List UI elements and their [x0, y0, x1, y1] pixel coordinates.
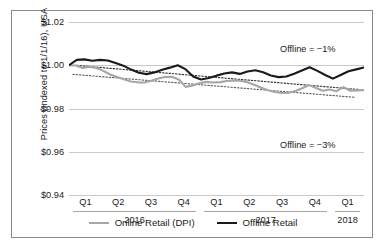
x-axis-quarter-tick: Q2: [112, 197, 124, 207]
x-axis-quarter-tick: Q2: [243, 197, 255, 207]
plot-area: $0.94$0.96$0.98$1.00$1.02 Offline = −1% …: [69, 22, 364, 195]
x-axis-year-rule: [204, 211, 327, 212]
y-axis-tick: $0.96: [41, 147, 64, 157]
legend-item-offline: Offline Retail: [217, 217, 298, 228]
x-axis-quarter-tick: Q3: [145, 197, 157, 207]
annotation-offline-minus-1: Offline = −1%: [280, 44, 336, 54]
y-axis-tick: $1.00: [41, 60, 64, 70]
x-axis-quarter-tick: Q1: [210, 197, 222, 207]
legend-item-online: Online Retail (DPI): [89, 217, 195, 228]
x-axis-quarter-tick: Q4: [309, 197, 321, 207]
online-line-swatch: [89, 222, 109, 224]
x-axis-year-rule: [335, 211, 360, 212]
y-axis-tick: $1.02: [41, 17, 64, 27]
x-axis-quarter-tick: Q1: [341, 197, 353, 207]
annotation-offline-minus-3: Offline = −3%: [280, 140, 336, 150]
y-axis-tick: $0.94: [41, 190, 64, 200]
online-retail-line: [69, 65, 364, 93]
chart-figure: Prices (Indexed to 1/1/16), USA $0.94$0.…: [11, 10, 373, 238]
x-axis-quarter-tick: Q3: [276, 197, 288, 207]
offline-line-swatch: [217, 222, 237, 224]
legend-label-online: Online Retail (DPI): [115, 217, 195, 228]
legend-label-offline: Offline Retail: [243, 217, 298, 228]
x-axis-quarter-tick: Q1: [79, 197, 91, 207]
x-axis-quarter-tick: Q4: [178, 197, 190, 207]
y-axis-tick: $0.98: [41, 104, 64, 114]
chart-legend: Online Retail (DPI) Offline Retail: [12, 217, 374, 228]
x-axis-year-rule: [73, 211, 196, 212]
